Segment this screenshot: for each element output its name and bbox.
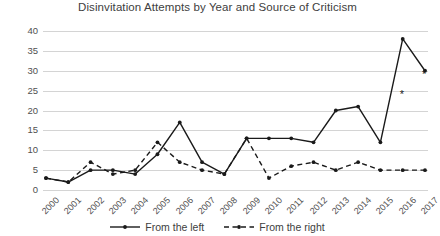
data-point bbox=[89, 168, 93, 172]
data-point bbox=[156, 152, 160, 156]
data-point bbox=[178, 121, 182, 125]
chart-legend: From the left From the right bbox=[0, 219, 435, 235]
series-from-the-left bbox=[44, 37, 427, 184]
data-point bbox=[178, 160, 182, 164]
legend-label-from-the-left: From the left bbox=[145, 221, 204, 233]
data-point bbox=[356, 160, 360, 164]
data-point bbox=[401, 168, 405, 172]
legend-swatch-dashed-icon bbox=[224, 222, 254, 232]
data-point bbox=[289, 164, 293, 168]
data-point bbox=[312, 160, 316, 164]
series-from-the-right bbox=[44, 136, 427, 184]
data-point bbox=[156, 140, 160, 144]
data-point bbox=[44, 176, 48, 180]
data-point bbox=[334, 168, 338, 172]
data-point bbox=[66, 180, 70, 184]
data-point bbox=[267, 136, 271, 140]
legend-item-from-the-right[interactable]: From the right bbox=[224, 221, 324, 233]
data-point bbox=[200, 160, 204, 164]
data-point bbox=[245, 136, 249, 140]
data-point bbox=[312, 140, 316, 144]
data-point bbox=[111, 168, 115, 172]
legend-item-from-the-left[interactable]: From the left bbox=[110, 221, 204, 233]
data-point bbox=[200, 168, 204, 172]
data-point bbox=[334, 109, 338, 113]
data-point bbox=[356, 105, 360, 109]
data-point bbox=[133, 172, 137, 176]
annotation-asterisk: * bbox=[422, 69, 426, 80]
data-point bbox=[379, 140, 383, 144]
data-point bbox=[222, 172, 226, 176]
data-point bbox=[401, 37, 405, 41]
data-point bbox=[423, 168, 427, 172]
data-point bbox=[289, 136, 293, 140]
series-line bbox=[46, 39, 425, 182]
data-point bbox=[111, 172, 115, 176]
legend-swatch-solid-icon bbox=[110, 222, 140, 232]
data-point bbox=[267, 176, 271, 180]
annotation-asterisk: * bbox=[400, 89, 404, 100]
legend-label-from-the-right: From the right bbox=[259, 221, 324, 233]
data-point bbox=[89, 160, 93, 164]
data-point bbox=[133, 168, 137, 172]
series-line bbox=[46, 138, 425, 182]
data-point bbox=[379, 168, 383, 172]
